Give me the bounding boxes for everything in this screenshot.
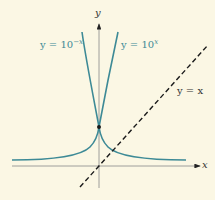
label-exponent: −x: [73, 38, 83, 46]
label-exponent: x: [154, 38, 158, 46]
label-prefix: y = 10: [40, 39, 73, 50]
x-axis-label: x: [202, 159, 208, 170]
graph-canvas: [0, 0, 215, 200]
intersection-point: [97, 125, 101, 129]
y-axis-label: y: [95, 7, 101, 18]
label-y-equals-x: y = x: [177, 85, 203, 96]
curve-10-pow-neg-x: [82, 32, 186, 160]
label-prefix: y = 10: [121, 39, 154, 50]
curve-10-pow-x: [12, 32, 118, 160]
label-10-pow-neg-x: y = 10−x: [40, 38, 83, 50]
label-10-pow-x: y = 10x: [121, 38, 158, 50]
